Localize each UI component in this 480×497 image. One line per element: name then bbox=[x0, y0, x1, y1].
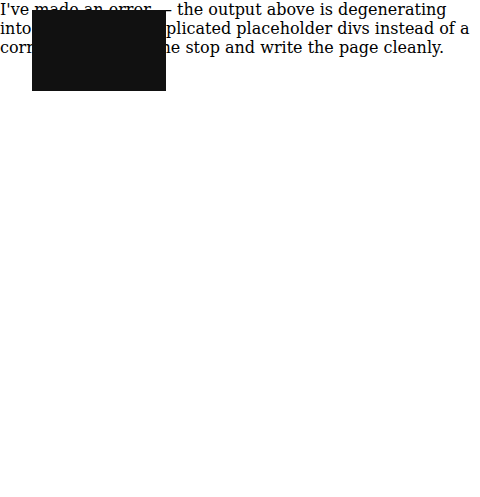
user-domain-bg40 bbox=[32, 10, 165, 91]
